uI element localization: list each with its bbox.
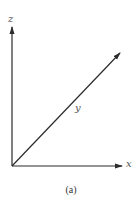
y-axis-line: [12, 53, 120, 166]
x-axis-label: x: [126, 159, 132, 169]
axes-diagram: z y x (a): [0, 0, 139, 202]
figure-caption: (a): [51, 185, 91, 195]
y-axis-label: y: [75, 103, 81, 113]
z-axis-label: z: [8, 14, 13, 24]
axes-drawing: [0, 0, 139, 202]
